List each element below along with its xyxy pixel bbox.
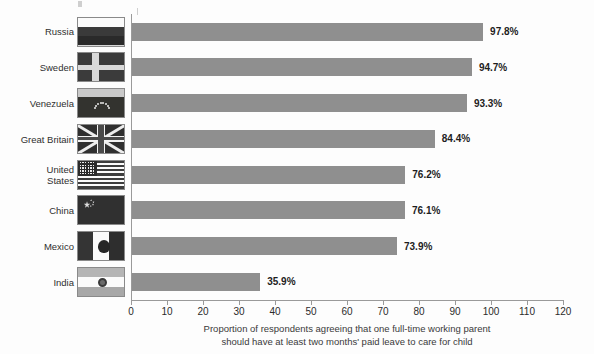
x-axis-tick-label: 80 bbox=[413, 306, 424, 317]
x-axis-tick-label: 70 bbox=[377, 306, 388, 317]
x-axis-tick-label: 0 bbox=[128, 306, 134, 317]
bar-track: 93.3% bbox=[131, 86, 594, 122]
country-label: Mexico bbox=[0, 229, 74, 265]
bar-track: 73.9% bbox=[131, 229, 594, 265]
x-axis-tick bbox=[455, 300, 456, 305]
x-axis-tick bbox=[491, 300, 492, 305]
axis-caption-line-2: should have at least two months' paid le… bbox=[131, 335, 563, 348]
x-axis-tick bbox=[419, 300, 420, 305]
bar-value-label: 94.7% bbox=[479, 59, 507, 76]
flag-venezuela-icon bbox=[77, 88, 125, 118]
x-axis-tick-label: 120 bbox=[555, 306, 572, 317]
x-axis-tick-label: 60 bbox=[341, 306, 352, 317]
bar-value-label: 76.1% bbox=[412, 202, 440, 219]
scan-artifact bbox=[78, 1, 82, 7]
bar-value-label: 97.8% bbox=[490, 23, 518, 40]
x-axis-tick bbox=[203, 300, 204, 305]
flag-great-britain-icon bbox=[77, 124, 125, 154]
bar-track: 94.7% bbox=[131, 50, 594, 86]
axis-caption-line-1: Proportion of respondents agreeing that … bbox=[131, 322, 563, 335]
x-axis-tick bbox=[131, 300, 132, 305]
country-label: Venezuela bbox=[0, 86, 74, 122]
bar bbox=[131, 237, 397, 255]
y-axis-line bbox=[131, 14, 132, 301]
chart-row: Sweden94.7% bbox=[0, 50, 594, 86]
x-axis-tick-label: 100 bbox=[483, 306, 500, 317]
flag-russia-icon bbox=[77, 17, 125, 47]
flag-mexico-icon bbox=[77, 231, 125, 261]
bar bbox=[131, 273, 260, 291]
x-axis-tick bbox=[311, 300, 312, 305]
flag-china-icon bbox=[77, 195, 125, 225]
chart-row: Great Britain84.4% bbox=[0, 121, 594, 157]
bar bbox=[131, 23, 483, 41]
bar-value-label: 76.2% bbox=[412, 166, 440, 183]
bar-chart: Russia97.8%Sweden94.7%Venezuela93.3%Grea… bbox=[0, 0, 594, 354]
country-label: China bbox=[0, 193, 74, 229]
chart-row: China76.1% bbox=[0, 193, 594, 229]
bar-value-label: 35.9% bbox=[267, 273, 295, 290]
bar-track: 97.8% bbox=[131, 14, 594, 50]
bar bbox=[131, 58, 472, 76]
bar bbox=[131, 94, 467, 112]
x-axis-tick bbox=[347, 300, 348, 305]
bar-track: 76.2% bbox=[131, 157, 594, 193]
bar-value-label: 84.4% bbox=[442, 130, 470, 147]
x-axis-tick-label: 10 bbox=[161, 306, 172, 317]
bar-track: 76.1% bbox=[131, 193, 594, 229]
bar bbox=[131, 130, 435, 148]
axis-caption: Proportion of respondents agreeing that … bbox=[131, 322, 563, 348]
x-axis-tick bbox=[563, 300, 564, 305]
chart-row: Russia97.8% bbox=[0, 14, 594, 50]
bar-track: 84.4% bbox=[131, 121, 594, 157]
chart-row: India35.9% bbox=[0, 264, 594, 300]
chart-rows: Russia97.8%Sweden94.7%Venezuela93.3%Grea… bbox=[0, 14, 594, 300]
country-label: United States bbox=[0, 157, 74, 193]
flag-sweden-icon bbox=[77, 52, 125, 82]
x-axis-tick-label: 40 bbox=[269, 306, 280, 317]
x-axis-tick bbox=[239, 300, 240, 305]
flag-united-states-icon bbox=[77, 160, 125, 190]
chart-row: Mexico73.9% bbox=[0, 229, 594, 265]
bar bbox=[131, 166, 405, 184]
chart-row: United States76.2% bbox=[0, 157, 594, 193]
x-axis-tick bbox=[383, 300, 384, 305]
x-axis-tick bbox=[527, 300, 528, 305]
country-label: India bbox=[0, 264, 74, 300]
x-axis-tick-label: 50 bbox=[305, 306, 316, 317]
country-label: Great Britain bbox=[0, 121, 74, 157]
chart-row: Venezuela93.3% bbox=[0, 86, 594, 122]
x-axis-tick-label: 110 bbox=[519, 306, 535, 317]
bar-track: 35.9% bbox=[131, 264, 594, 300]
country-label: Russia bbox=[0, 14, 74, 50]
x-axis-tick bbox=[275, 300, 276, 305]
x-axis-tick-label: 90 bbox=[449, 306, 460, 317]
x-axis-tick bbox=[167, 300, 168, 305]
x-axis-tick-label: 30 bbox=[233, 306, 244, 317]
bar-value-label: 73.9% bbox=[404, 238, 432, 255]
country-label: Sweden bbox=[0, 50, 74, 86]
flag-india-icon bbox=[77, 267, 125, 297]
bar bbox=[131, 201, 405, 219]
bar-value-label: 93.3% bbox=[474, 95, 502, 112]
x-axis-tick-label: 20 bbox=[197, 306, 208, 317]
